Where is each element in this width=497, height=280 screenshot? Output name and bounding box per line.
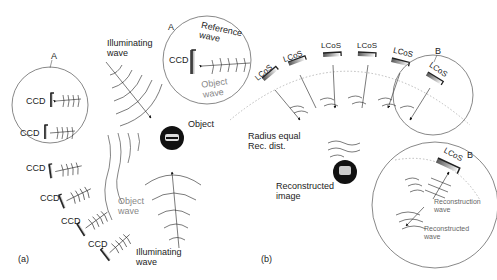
object-label: Object <box>188 119 214 129</box>
ccd-label: CCD <box>88 239 108 249</box>
ccd-array <box>44 93 135 261</box>
circle-a-label: A <box>51 51 57 61</box>
object-wave-label: Objectwave <box>118 196 144 216</box>
ccd-label: CCD <box>26 96 46 106</box>
reconstructed-image-figure <box>333 160 357 184</box>
inset-object-wave-label: Objectwave <box>201 76 230 99</box>
illuminating-wave-bottom <box>145 172 201 248</box>
inset-a-ccd-label: CCD <box>169 55 189 65</box>
reconstruction-wave-label: Reconstructionwave <box>434 198 481 214</box>
ccd-label: CCD <box>40 193 60 203</box>
illuminating-wave-bottom-label: Illuminatingwave <box>136 247 182 267</box>
ccd-label: CCD <box>20 128 40 138</box>
reconstructed-wave-label: Reconstructedwave <box>424 225 469 241</box>
illuminating-wave-top <box>106 62 162 126</box>
ccd-label: CCD <box>61 216 81 226</box>
lcos-label: LCoS <box>357 41 377 51</box>
inset-b-label: B <box>467 150 473 160</box>
reconstructed-image-label: Reconstructedimage <box>276 181 334 201</box>
panel-a-label: (a) <box>18 254 29 264</box>
inset-a-label: A <box>168 22 174 32</box>
ccd-label: CCD <box>26 163 46 173</box>
illuminating-wave-top-label: Illuminatingwave <box>107 38 153 58</box>
lcos-label: LCoS <box>321 41 341 51</box>
panel-b-label: (b) <box>261 254 272 264</box>
circle-b-label: B <box>435 46 441 56</box>
radius-note: Radius equalRec. dist. <box>248 131 301 151</box>
object-figure <box>160 126 184 150</box>
